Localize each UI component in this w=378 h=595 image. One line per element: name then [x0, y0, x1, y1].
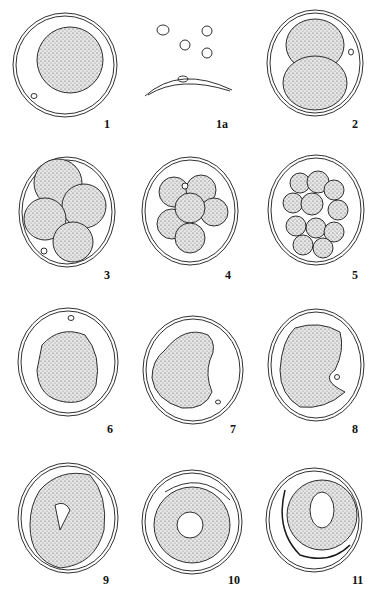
figure-3-egg — [19, 157, 115, 267]
figure-10-egg — [142, 470, 242, 574]
figure-label-11: 11 — [352, 573, 363, 588]
figure-6-egg — [18, 308, 118, 416]
figure-9-egg — [18, 463, 118, 573]
figure-label-10: 10 — [228, 573, 240, 588]
figure-label-1a: 1a — [216, 117, 228, 132]
figure-8-egg — [268, 309, 364, 421]
figure-1-egg — [13, 13, 117, 117]
figure-label-7: 7 — [230, 422, 236, 437]
figure-label-4: 4 — [225, 268, 231, 283]
figure-11-egg — [266, 468, 362, 572]
figure-label-9: 9 — [103, 573, 109, 588]
figure-label-8: 8 — [352, 422, 358, 437]
figure-7-egg — [143, 316, 243, 424]
figure-2-egg — [267, 10, 363, 116]
figure-label-5: 5 — [352, 268, 358, 283]
figure-label-3: 3 — [104, 268, 110, 283]
figure-5-egg — [268, 155, 364, 265]
figure-label-1: 1 — [104, 117, 110, 132]
embryo-plate-drawing — [0, 0, 378, 595]
figure-label-6: 6 — [107, 422, 113, 437]
figure-1a-cells — [145, 25, 232, 96]
figure-4-egg — [142, 157, 238, 265]
figure-label-2: 2 — [352, 117, 358, 132]
